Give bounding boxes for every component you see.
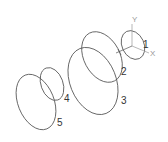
ellipse-1-group: Y X 1 [116,15,156,63]
y-axis-label: Y [132,15,138,24]
x-axis-label: X [150,49,156,58]
ellipse-2-label: 2 [121,66,127,77]
ellipse-5-label: 5 [57,117,63,128]
ellipse-5 [8,68,63,135]
ellipse-2 [73,25,130,90]
ellipse-4-label: 4 [64,93,70,104]
ellipse-3-label: 3 [121,95,127,106]
diagram-canvas: Y X 1 2 3 4 5 [0,0,168,142]
ellipse-1-label: 1 [143,39,149,50]
